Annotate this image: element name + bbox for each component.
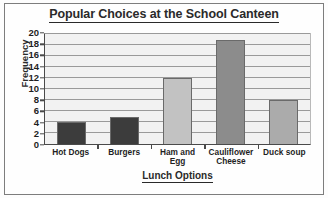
y-tick-label: 16 (28, 51, 39, 61)
plot-area (44, 33, 311, 145)
y-tick-label: 6 (34, 107, 39, 117)
bar-series (45, 34, 310, 144)
x-category-label: Hot Dogs (44, 148, 97, 165)
x-axis-title-text: Lunch Options (142, 170, 213, 183)
x-axis-title: Lunch Options (44, 170, 311, 181)
bar-slot (204, 34, 257, 144)
bar[interactable] (269, 100, 298, 144)
y-tick-label: 20 (28, 28, 39, 38)
bar-slot (257, 34, 310, 144)
bar-slot (45, 34, 98, 144)
y-tick-label: 4 (34, 118, 39, 128)
chart-page: Popular Choices at the School Canteen Fr… (0, 0, 328, 198)
bar[interactable] (110, 117, 139, 145)
bar-slot (98, 34, 151, 144)
x-category-label: Burgers (97, 148, 150, 165)
y-tick-label: 2 (34, 129, 39, 139)
y-tick-label: 8 (34, 95, 39, 105)
x-axis-category-labels: Hot DogsBurgersHam and EggCauliflower Ch… (44, 148, 311, 165)
bar[interactable] (163, 78, 192, 144)
bar[interactable] (216, 40, 245, 145)
bar[interactable] (57, 122, 86, 144)
chart-title: Popular Choices at the School Canteen (0, 7, 328, 21)
bar-slot (151, 34, 204, 144)
y-tick-label: 0 (34, 140, 39, 150)
y-axis-ticks: 02468101214161820 (0, 33, 44, 145)
x-category-label: Cauliflower Cheese (204, 148, 257, 165)
x-category-label: Ham and Egg (151, 148, 204, 165)
x-category-label: Duck soup (258, 148, 311, 165)
y-tick-label: 18 (28, 39, 39, 49)
chart-title-text: Popular Choices at the School Canteen (49, 7, 279, 23)
y-tick-label: 12 (28, 73, 39, 83)
y-tick-label: 10 (28, 84, 39, 94)
y-tick-label: 14 (28, 62, 39, 72)
